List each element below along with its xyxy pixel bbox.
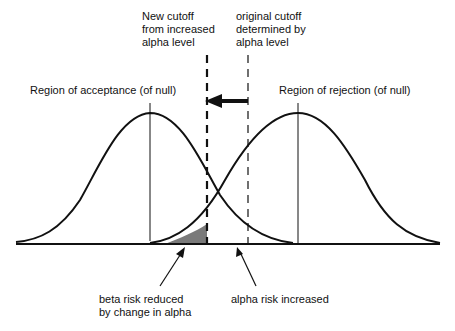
new-cutoff-label: New cutoff from increased alpha level — [142, 10, 215, 49]
cutoff-shift-arrowhead-icon — [205, 94, 222, 108]
beta-risk-shaded-area — [165, 224, 207, 244]
region-rejection-label: Region of rejection (of null) — [279, 84, 410, 97]
beta-pointer-line — [160, 252, 182, 286]
alternative-distribution-curve — [150, 113, 440, 243]
diagram-canvas — [0, 0, 455, 331]
beta-pointer-arrowhead-icon — [176, 247, 185, 258]
null-distribution-curve — [16, 113, 293, 243]
alpha-risk-label: alpha risk increased — [231, 293, 329, 306]
region-acceptance-label: Region of acceptance (of null) — [30, 84, 176, 97]
beta-risk-label: beta risk reduced by change in alpha — [99, 293, 191, 319]
alpha-pointer-line — [240, 252, 256, 286]
original-cutoff-label: original cutoff determined by alpha leve… — [236, 10, 306, 49]
